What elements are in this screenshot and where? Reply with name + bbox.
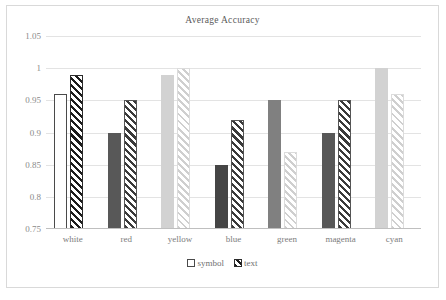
bar-magenta-symbol[interactable] bbox=[322, 133, 335, 230]
y-axis-tick-label: 0.75 bbox=[25, 224, 41, 234]
y-axis-tick-label: 1.05 bbox=[25, 31, 41, 41]
bar-yellow-text[interactable] bbox=[177, 68, 190, 229]
bar-group: red bbox=[100, 36, 154, 229]
x-axis-tick-label: green bbox=[260, 234, 314, 244]
bar-blue-symbol[interactable] bbox=[215, 165, 228, 229]
gridline bbox=[46, 229, 421, 230]
x-axis-tick-label: cyan bbox=[367, 234, 421, 244]
bar-group: magenta bbox=[314, 36, 368, 229]
chart-legend: symboltext bbox=[7, 258, 438, 268]
bar-magenta-text[interactable] bbox=[338, 100, 351, 229]
chart-card: Average Accuracy 1.0510.950.90.850.80.75… bbox=[6, 5, 439, 288]
open-square-marker bbox=[187, 259, 195, 267]
bar-group: yellow bbox=[153, 36, 207, 229]
y-axis-tick-label: 0.85 bbox=[25, 160, 41, 170]
y-axis-tick-label: 1 bbox=[37, 63, 42, 73]
bar-group: cyan bbox=[367, 36, 421, 229]
bar-group: blue bbox=[207, 36, 261, 229]
x-axis-tick-label: yellow bbox=[153, 234, 207, 244]
legend-item-text[interactable]: text bbox=[234, 258, 258, 268]
x-axis-line bbox=[46, 228, 421, 229]
bar-group: green bbox=[260, 36, 314, 229]
bar-cyan-symbol[interactable] bbox=[375, 68, 388, 229]
y-axis-tick-label: 0.9 bbox=[30, 128, 41, 138]
x-axis-tick-label: blue bbox=[207, 234, 261, 244]
bar-green-symbol[interactable] bbox=[268, 100, 281, 229]
chart-title: Average Accuracy bbox=[7, 15, 438, 25]
y-axis-tick-label: 0.8 bbox=[30, 192, 41, 202]
legend-item-symbol[interactable]: symbol bbox=[187, 258, 224, 268]
plot-area: 1.0510.950.90.850.80.75 whiteredyellowbl… bbox=[46, 36, 421, 229]
bar-white-text[interactable] bbox=[70, 75, 83, 229]
x-axis-tick-label: magenta bbox=[314, 234, 368, 244]
y-axis-tick-label: 0.95 bbox=[25, 95, 41, 105]
x-axis-tick-label: white bbox=[46, 234, 100, 244]
bar-yellow-symbol[interactable] bbox=[161, 75, 174, 229]
legend-label: symbol bbox=[197, 258, 224, 268]
legend-label: text bbox=[244, 258, 258, 268]
bar-group: white bbox=[46, 36, 100, 229]
bar-green-text[interactable] bbox=[284, 152, 297, 229]
bar-red-symbol[interactable] bbox=[108, 133, 121, 230]
x-axis-tick-label: red bbox=[100, 234, 154, 244]
bar-red-text[interactable] bbox=[124, 100, 137, 229]
bar-white-symbol[interactable] bbox=[54, 94, 67, 229]
hatched-square-marker bbox=[234, 259, 242, 267]
bar-blue-text[interactable] bbox=[231, 120, 244, 229]
bar-cyan-text[interactable] bbox=[391, 94, 404, 229]
